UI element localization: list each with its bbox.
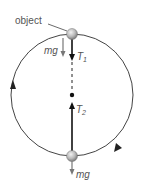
mg-bottom-arrow-icon — [70, 169, 75, 175]
object-leader-line — [48, 24, 67, 31]
t2-label-sub: 2 — [81, 109, 86, 116]
direction-arrow-right-icon — [114, 143, 122, 152]
circular-motion-diagram: object mg T1 T2 mg — [0, 0, 146, 191]
t1-arrow-icon — [69, 54, 75, 61]
t2-arrow-icon — [69, 102, 75, 109]
center-pivot — [70, 93, 74, 97]
t1-label-sub: 1 — [83, 56, 87, 63]
t2-label: T2 — [76, 104, 86, 116]
object-label: object — [15, 15, 42, 26]
mg-bottom-label: mg — [76, 169, 90, 180]
object-ball-bottom — [67, 151, 78, 162]
object-ball-top — [67, 29, 78, 40]
mg-top-label: mg — [44, 45, 58, 56]
direction-arrow-left-icon — [10, 80, 16, 89]
t1-label: T1 — [77, 51, 87, 63]
mg-top-arrow-icon — [61, 51, 66, 57]
